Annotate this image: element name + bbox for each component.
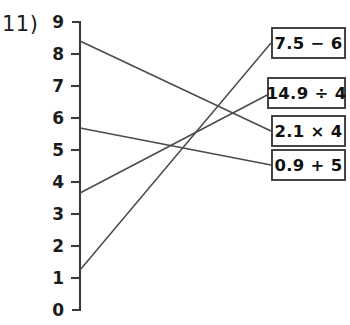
y-axis-line [72, 22, 80, 310]
tick-label-1: 1 [52, 268, 64, 288]
answer-box-3[interactable]: 2.1 × 4 [272, 116, 345, 146]
worksheet-question: 11) 9 8 7 6 5 4 3 2 1 0 7.5 − 6 [0, 0, 350, 325]
matching-diagram: 9 8 7 6 5 4 3 2 1 0 7.5 − 6 14.9 ÷ 4 2.1… [0, 0, 350, 325]
tick-label-7: 7 [52, 76, 64, 96]
tick-label-3: 3 [52, 204, 64, 224]
connector-line-4[interactable] [80, 43, 271, 270]
answer-box-1-label: 7.5 − 6 [274, 34, 342, 53]
answer-box-1[interactable]: 7.5 − 6 [272, 28, 345, 58]
connector-line-2[interactable] [80, 128, 271, 165]
tick-label-4: 4 [52, 172, 64, 192]
tick-label-2: 2 [52, 236, 64, 256]
answer-box-2-label: 14.9 ÷ 4 [267, 84, 347, 103]
connector-line-1[interactable] [80, 41, 271, 131]
tick-label-5: 5 [52, 140, 64, 160]
tick-label-9: 9 [52, 12, 64, 32]
tick-label-8: 8 [52, 44, 64, 64]
answer-box-4[interactable]: 0.9 + 5 [272, 150, 345, 180]
answer-box-4-label: 0.9 + 5 [274, 156, 342, 175]
answer-box-3-label: 2.1 × 4 [274, 122, 342, 141]
connector-line-3[interactable] [80, 93, 271, 193]
tick-label-6: 6 [52, 108, 64, 128]
tick-label-0: 0 [52, 300, 64, 320]
answer-box-2[interactable]: 14.9 ÷ 4 [267, 78, 347, 108]
